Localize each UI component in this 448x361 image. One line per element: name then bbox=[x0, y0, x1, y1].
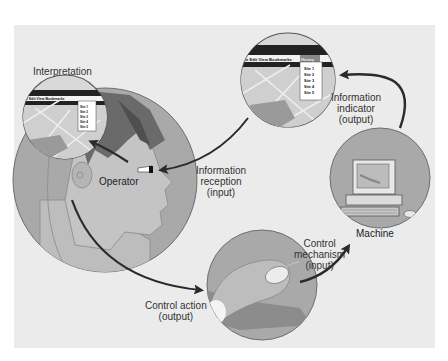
svg-text:Site 5: Site 5 bbox=[304, 91, 314, 95]
svg-text:Site 1: Site 1 bbox=[80, 105, 88, 109]
svg-text:Site 2: Site 2 bbox=[304, 73, 314, 77]
label-operator: Operator bbox=[99, 176, 138, 187]
label-control-mechanism: Control mechanism (input) bbox=[294, 238, 345, 271]
svg-text:Site 3: Site 3 bbox=[80, 115, 88, 119]
svg-text:Site 5: Site 5 bbox=[80, 125, 88, 129]
label-machine: Machine bbox=[356, 228, 394, 239]
indicator-view: File Edit View Bookmarks History Site 1 … bbox=[238, 33, 338, 132]
machine-node bbox=[330, 128, 430, 228]
label-interpretation: Interpretation bbox=[33, 66, 92, 77]
label-info-reception: Information reception (input) bbox=[196, 165, 246, 198]
label-control-action: Control action (output) bbox=[145, 300, 207, 322]
svg-text:File Edit View Bookmarks: File Edit View Bookmarks bbox=[241, 57, 293, 62]
svg-text:Site 3: Site 3 bbox=[304, 79, 314, 83]
svg-text:Site 2: Site 2 bbox=[80, 110, 88, 114]
svg-text:History: History bbox=[301, 58, 315, 62]
label-info-indicator: Information indicator (output) bbox=[331, 92, 381, 125]
svg-text:Site 4: Site 4 bbox=[80, 120, 88, 124]
svg-text:Site 4: Site 4 bbox=[304, 85, 315, 89]
svg-text:Site 1: Site 1 bbox=[304, 67, 314, 71]
svg-text:File Edit View Bookmarks: File Edit View Bookmarks bbox=[22, 97, 65, 101]
